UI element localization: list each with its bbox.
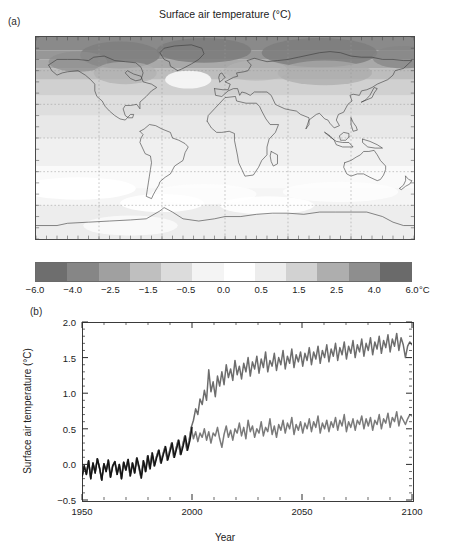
map-panel	[35, 36, 415, 240]
colorbar-band-1	[67, 263, 98, 281]
colorbar-tick-0: −6.0	[26, 284, 45, 295]
timeseries-lines	[82, 322, 412, 500]
colorbar-band-11	[380, 263, 411, 281]
y-tick-label-2: 0.5	[42, 423, 76, 434]
colorbar-tick-3: −1.5	[139, 284, 158, 295]
timeseries-panel: (b) Surface air temperature (°C) Year −0…	[0, 300, 450, 554]
colorbar-unit-label: °C	[419, 284, 430, 295]
colorbar	[35, 262, 412, 282]
colorbar-band-4	[161, 263, 192, 281]
x-axis-label: Year	[0, 532, 450, 543]
colorbar-band-6	[224, 263, 255, 281]
colorbar-tick-10: 6.0	[405, 284, 418, 295]
x-tick-label-1: 2000	[181, 506, 202, 517]
colorbar-band-5	[192, 263, 223, 281]
colorbar-tick-2: −2.5	[101, 284, 120, 295]
colorbar-band-10	[349, 263, 380, 281]
colorbar-tick-8: 2.5	[330, 284, 343, 295]
colorbar-band-3	[130, 263, 161, 281]
panel-a-label: (a)	[8, 16, 20, 27]
x-tick-label-3: 2100	[401, 506, 422, 517]
colorbar-tick-7: 1.5	[292, 284, 305, 295]
colorbar-bands	[35, 262, 412, 282]
colorbar-band-7	[255, 263, 286, 281]
colorbar-band-0	[36, 263, 67, 281]
map-temperature-field	[36, 37, 414, 239]
y-tick-label-3: 1.0	[42, 388, 76, 399]
colorbar-band-9	[317, 263, 348, 281]
colorbar-band-8	[286, 263, 317, 281]
panel-b-label: (b)	[30, 306, 42, 317]
colorbar-tick-6: 0.5	[255, 284, 268, 295]
colorbar-band-2	[99, 263, 130, 281]
figure-title: Surface air temperature (°C)	[0, 8, 450, 20]
y-tick-label-5: 2.0	[42, 317, 76, 328]
colorbar-tick-4: −0.5	[176, 284, 195, 295]
x-tick-label-2: 2050	[291, 506, 312, 517]
y-tick-label-4: 1.5	[42, 352, 76, 363]
colorbar-tick-labels: −6.0−4.0−2.5−1.5−0.50.00.51.52.54.06.0	[35, 284, 412, 298]
colorbar-tick-1: −4.0	[63, 284, 82, 295]
y-tick-label-0: −0.5	[42, 495, 76, 506]
x-tick-label-0: 1950	[71, 506, 92, 517]
y-axis-label: Surface air temperature (°C)	[22, 348, 33, 474]
y-tick-label-1: 0.0	[42, 459, 76, 470]
colorbar-tick-5: 0.0	[217, 284, 230, 295]
map-frame	[35, 36, 415, 240]
colorbar-tick-9: 4.0	[368, 284, 381, 295]
